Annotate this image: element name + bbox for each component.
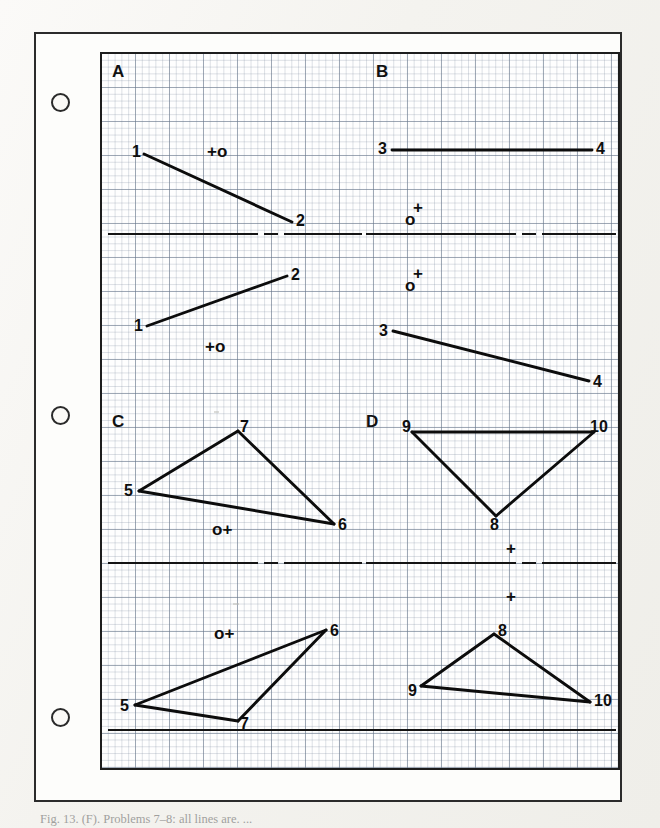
panel-d-top-view-marker-2: +: [506, 587, 516, 607]
panel-d-top-view-marker-1: +: [506, 539, 516, 559]
panel-d-front-view: [421, 634, 590, 702]
panel-a-top-view-segment-1: [144, 154, 292, 222]
panel-c-front-view-segment-3: [135, 705, 238, 721]
panel-d-front-view-segment-3: [421, 686, 590, 702]
panel-c-front-view-segment-2: [238, 630, 326, 721]
panel-a-front-view-point-label-2: 2: [291, 266, 300, 284]
panel-d-front-view-segment-1: [421, 634, 494, 686]
panel-b-front-view-segment-1: [393, 331, 589, 381]
panel-d-front-view-point-label-9: 9: [408, 682, 417, 700]
panel-a-front-view-point-label-1: 1: [134, 317, 143, 335]
panel-label-a: A: [112, 62, 125, 82]
panel-c-top-view: [139, 431, 334, 524]
paper-smudge-2: [233, 603, 239, 605]
panel-b-front-view-point-label-4: 4: [593, 373, 602, 391]
panel-c-top-view-point-label-6: 6: [338, 516, 347, 534]
panel-b-top-view-point-label-3: 3: [378, 140, 387, 158]
panel-d-top-view-segment-2: [496, 432, 594, 516]
hole-punch-top: [51, 93, 70, 112]
panel-c-front-view-point-label-7: 7: [240, 715, 249, 733]
panel-d-front-view-point-label-8: 8: [498, 622, 507, 640]
panel-b-front-view-marker-2: +: [413, 264, 423, 284]
panel-c-front-view-marker-1: o+: [214, 624, 234, 644]
panel-label-b: B: [376, 62, 389, 82]
panel-b-front-view-point-label-3: 3: [379, 322, 388, 340]
figure-caption: Fig. 13. (F). Problems 7–8: all lines ar…: [40, 812, 252, 827]
panel-c-top-view-marker-1: o+: [212, 520, 232, 540]
panel-d-top-view-point-label-10: 10: [590, 418, 608, 436]
panel-a-top-view-point-label-2: 2: [296, 212, 305, 230]
panel-a-top-view: [144, 154, 292, 222]
projection-drawing: [102, 54, 620, 770]
panel-a-top-view-marker-1: +o: [207, 142, 227, 162]
panel-a-front-view-marker-1: +o: [205, 337, 225, 357]
panel-d-top-view: [412, 432, 594, 516]
panel-b-top-view-marker-2: +: [413, 198, 423, 218]
panel-d-front-view-point-label-10: 10: [594, 692, 612, 710]
panel-c-front-view-point-label-5: 5: [120, 697, 129, 715]
panel-b-top-view-point-label-4: 4: [596, 140, 605, 158]
panel-a-front-view: [147, 276, 287, 326]
panel-c-front-view-point-label-6: 6: [330, 622, 339, 640]
paper-smudge-1: [214, 411, 219, 413]
panel-d-front-view-segment-2: [494, 634, 590, 702]
panel-d-top-view-segment-3: [412, 432, 496, 516]
hole-punch-bottom: [51, 708, 70, 727]
panel-a-front-view-segment-1: [147, 276, 287, 326]
panel-c-top-view-point-label-7: 7: [240, 418, 249, 436]
panel-c-top-view-point-label-5: 5: [124, 482, 133, 500]
panel-d-top-view-point-label-8: 8: [490, 516, 499, 534]
panel-b-front-view: [393, 331, 589, 381]
panel-d-top-view-point-label-9: 9: [402, 418, 411, 436]
drawing-frame: A12+o12+oB34o+34o+C576o+576o+D9108++8910: [100, 52, 620, 770]
hole-punch-middle: [51, 406, 70, 425]
panel-a-top-view-point-label-1: 1: [132, 143, 141, 161]
panel-label-c: C: [112, 412, 125, 432]
paper-sheet: A12+o12+oB34o+34o+C576o+576o+D9108++8910…: [0, 0, 660, 828]
panel-label-d: D: [366, 412, 379, 432]
panel-c-top-view-segment-1: [139, 431, 238, 491]
